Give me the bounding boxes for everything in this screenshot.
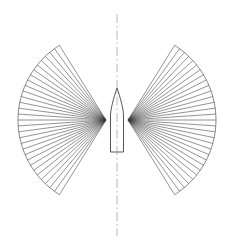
swath-coverage-diagram bbox=[0, 0, 231, 250]
diagram-canvas bbox=[0, 0, 231, 250]
